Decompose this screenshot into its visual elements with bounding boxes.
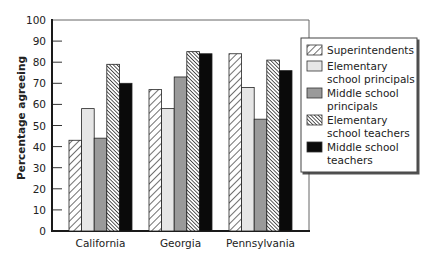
bar	[149, 90, 162, 231]
bar	[94, 138, 107, 231]
bar	[242, 88, 255, 231]
y-tick-label: 90	[33, 35, 46, 47]
legend-label: teachers	[327, 154, 373, 166]
y-tick-label: 0	[39, 225, 46, 237]
x-category-label: Pennsylvania	[226, 237, 295, 249]
legend-label: Elementary	[327, 114, 387, 126]
bar	[162, 109, 175, 231]
bar	[267, 60, 280, 231]
legend-label: principals	[327, 100, 378, 112]
x-category-label: Georgia	[160, 237, 201, 249]
legend-label: school teachers	[327, 127, 410, 139]
y-tick-label: 60	[33, 98, 46, 110]
bar	[254, 119, 267, 231]
y-tick-label: 30	[33, 162, 46, 174]
bar	[82, 109, 95, 231]
y-tick-label: 50	[33, 120, 46, 132]
bar	[119, 83, 132, 231]
bar	[229, 54, 242, 231]
y-tick-label: 10	[33, 204, 46, 216]
legend-label: school principals	[327, 73, 415, 85]
y-tick-label: 40	[33, 141, 46, 153]
legend-label: Middle school	[327, 141, 399, 153]
bar	[187, 52, 200, 231]
bar	[199, 54, 212, 231]
bar	[69, 140, 82, 231]
legend-swatch	[307, 88, 322, 98]
y-tick-label: 100	[26, 14, 46, 26]
legend: SuperintendentsElementaryschool principa…	[301, 38, 417, 172]
bar	[174, 77, 187, 231]
legend-label: Middle school	[327, 87, 399, 99]
legend-swatch	[307, 45, 322, 55]
x-category-label: California	[76, 237, 126, 249]
legend-label: Superintendents	[327, 44, 414, 56]
bars	[69, 52, 292, 231]
bar	[279, 71, 292, 231]
x-axis: CaliforniaGeorgiaPennsylvania	[76, 237, 295, 249]
legend-swatch	[307, 115, 322, 125]
y-axis-label: Percentage agreeing	[15, 56, 27, 180]
legend-label: Elementary	[327, 60, 387, 72]
y-tick-label: 20	[33, 183, 46, 195]
legend-swatch	[307, 142, 322, 152]
y-tick-label: 70	[33, 77, 46, 89]
bar	[107, 64, 120, 231]
y-tick-label: 80	[33, 56, 46, 68]
bar-chart: 0102030405060708090100 CaliforniaGeorgia…	[0, 0, 425, 258]
legend-swatch	[307, 61, 322, 71]
